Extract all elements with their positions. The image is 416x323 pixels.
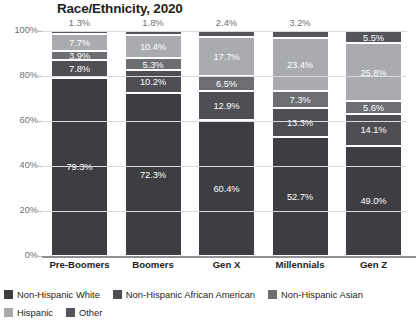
bar-segment[interactable]: 13.3% [272, 108, 329, 138]
x-axis-category-label: Pre-Boomers [45, 259, 115, 270]
bar-segment-value-label: 52.7% [287, 191, 313, 202]
bar-segment[interactable]: 72.3% [125, 93, 182, 256]
bar-segment[interactable]: 52.7% [272, 137, 329, 256]
bar-column[interactable]: 49.0%14.1%5.6%25.8%5.5% [345, 31, 402, 256]
bar-segment-outer-label: 1.3% [51, 17, 108, 28]
legend-swatch-icon [4, 290, 13, 299]
bar-segment-value-label: 72.3% [140, 169, 166, 180]
y-axis-tick-label: 60% [4, 115, 38, 125]
bar-segment[interactable]: 25.8% [345, 43, 402, 101]
bar-segment[interactable]: 3.9% [51, 51, 108, 60]
legend-item-label: Non-Hispanic African American [126, 289, 255, 300]
chart-legend: Non-Hispanic WhiteNon-Hispanic African A… [4, 287, 414, 323]
bar-segment-value-label: 7.7% [69, 37, 90, 48]
bar-segment[interactable]: 7.3% [272, 91, 329, 107]
bar-segment-value-label: 23.4% [287, 59, 313, 70]
legend-item-label: Non-Hispanic White [17, 289, 100, 300]
bar-segment-value-label: 5.3% [143, 59, 164, 70]
bar-column[interactable]: 72.3%10.2%5.3%10.4% [125, 31, 182, 256]
bar-segment[interactable]: 12.9% [198, 91, 255, 120]
legend-swatch-icon [66, 308, 75, 317]
bar-segment-value-label: 49.0% [360, 195, 386, 206]
bar-segment-outer-label: 2.4% [198, 17, 255, 28]
bar-column[interactable]: 60.4%12.9%6.5%17.7% [198, 31, 255, 256]
bar-segment[interactable] [272, 31, 329, 38]
y-axis-tick-label: 40% [4, 160, 38, 170]
bar-segment-value-label: 10.4% [140, 41, 166, 52]
bar-segment[interactable]: 17.7% [198, 37, 255, 77]
y-axis-tick-label: 100% [4, 25, 38, 35]
legend-row-2: HispanicOther [4, 305, 414, 320]
gridline [42, 166, 407, 167]
y-axis-tick-label: 0% [4, 250, 38, 260]
legend-swatch-icon [268, 290, 277, 299]
y-axis-tick-label: 20% [4, 205, 38, 215]
bar-segment[interactable]: 23.4% [272, 38, 329, 91]
bar-segment[interactable]: 60.4% [198, 120, 255, 256]
bar-segment[interactable]: 5.3% [125, 58, 182, 70]
bar-segment-value-label: 60.4% [213, 183, 239, 194]
legend-swatch-icon [4, 308, 13, 317]
x-axis-category-label: Gen Z [339, 259, 409, 270]
bar-segment-value-label: 7.3% [290, 94, 311, 105]
legend-swatch-icon [113, 290, 122, 299]
bar-segment-value-label: 5.5% [363, 32, 384, 43]
bar-segment-outer-label: 1.8% [125, 17, 182, 28]
bar-column[interactable]: 79.3%7.8%3.9%7.7% [51, 31, 108, 256]
legend-item-label: Other [79, 307, 102, 318]
bar-segment[interactable]: 5.6% [345, 101, 402, 114]
x-axis-category-label: Boomers [118, 259, 188, 270]
x-axis-category-label: Millennials [265, 259, 335, 270]
legend-item[interactable]: Hispanic [4, 307, 53, 318]
x-axis-category-label: Gen X [192, 259, 262, 270]
legend-row-1: Non-Hispanic WhiteNon-Hispanic African A… [4, 287, 414, 302]
chart-container: Race/Ethnicity, 2020 0%20%40%60%80%100% … [0, 0, 416, 323]
bar-segment-value-label: 17.7% [213, 51, 239, 62]
bar-segment[interactable]: 10.2% [125, 70, 182, 93]
gridline [42, 121, 407, 122]
bar-segment[interactable]: 7.7% [51, 34, 108, 51]
bar-segment-value-label: 12.9% [213, 100, 239, 111]
gridline [42, 76, 407, 77]
bar-segment[interactable] [198, 31, 255, 36]
chart-title: Race/Ethnicity, 2020 [57, 1, 183, 16]
legend-item[interactable]: Non-Hispanic White [4, 289, 100, 300]
legend-item[interactable]: Non-Hispanic Asian [268, 289, 363, 300]
plot-area: 1.3%79.3%7.8%3.9%7.7%1.8%72.3%10.2%5.3%1… [42, 31, 407, 257]
y-axis: 0%20%40%60%80%100% [0, 31, 38, 257]
gridline [42, 211, 407, 212]
legend-item-label: Hispanic [17, 307, 53, 318]
legend-item[interactable]: Non-Hispanic African American [113, 289, 255, 300]
bar-segment[interactable]: 14.1% [345, 114, 402, 146]
bar-segment[interactable]: 5.5% [345, 31, 402, 43]
bar-segment-value-label: 5.6% [363, 102, 384, 113]
bar-segment[interactable]: 10.4% [125, 35, 182, 58]
legend-item-label: Non-Hispanic Asian [281, 289, 363, 300]
bar-segment[interactable]: 49.0% [345, 146, 402, 256]
x-axis-labels: Pre-BoomersBoomersGen XMillennialsGen Z [42, 259, 407, 275]
bar-segment-value-label: 13.3% [287, 117, 313, 128]
legend-item[interactable]: Other [66, 307, 102, 318]
bar-segment-value-label: 10.2% [140, 76, 166, 87]
x-axis-line [42, 256, 416, 258]
gridline [42, 31, 407, 32]
bar-segment-value-label: 6.5% [216, 78, 237, 89]
bar-segment[interactable]: 7.8% [51, 60, 108, 78]
bar-segment-outer-label: 3.2% [272, 17, 329, 28]
bar-column[interactable]: 52.7%13.3%7.3%23.4% [272, 31, 329, 256]
bar-segment-value-label: 7.8% [69, 63, 90, 74]
bar-segment-value-label: 3.9% [69, 51, 90, 60]
y-axis-tick-label: 80% [4, 70, 38, 80]
bar-segment[interactable]: 6.5% [198, 76, 255, 91]
bars-group: 1.3%79.3%7.8%3.9%7.7%1.8%72.3%10.2%5.3%1… [42, 31, 407, 257]
bar-segment-value-label: 14.1% [360, 124, 386, 135]
